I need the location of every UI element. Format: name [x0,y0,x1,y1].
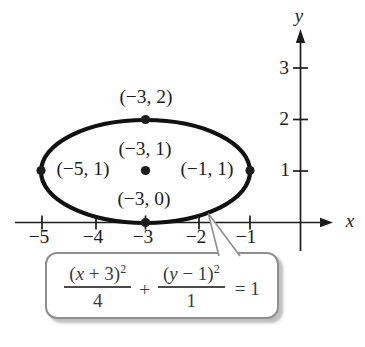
point-label-center: (−3, 1) [118,139,171,159]
fraction-x-denominator: 4 [93,291,103,310]
exponent: 2 [214,262,220,276]
fraction-x-numerator: (x + 3)2 [64,264,131,288]
y-tick-label: 3 [279,58,289,78]
figure-canvas: y x −5 −4 −3 −2 −1 3 2 1 (−3, 2) (−3, 1)… [0,0,365,347]
fraction-y-numerator: (y − 1)2 [158,264,225,288]
vertex-dot-right [245,166,254,175]
exponent: 2 [120,262,126,276]
equation-callout: (x + 3)2 4 + (y − 1)2 1 = 1 [45,252,279,319]
fraction-y-term: (y − 1)2 1 [158,264,225,310]
vertex-dot-top [141,115,150,124]
y-axis-arrow-icon [296,29,305,43]
equation-rhs: = 1 [235,274,260,300]
point-label-top: (−3, 2) [119,87,172,107]
x-axis-label: x [346,211,354,230]
x-axis-arrow-icon [320,218,333,227]
plus-operator: + [139,273,150,301]
x-tick-label: −2 [186,227,207,247]
y-axis-label: y [295,6,303,25]
y-tick-label: 1 [280,160,290,180]
vertex-dot-left [36,166,45,175]
point-label-right: (−1, 1) [180,159,233,179]
center-dot [141,166,150,175]
point-label-bottom: (−3, 0) [117,189,170,209]
fraction-x-term: (x + 3)2 4 [64,264,131,310]
y-tick-label: 2 [279,109,289,129]
fraction-y-denominator: 1 [187,291,197,310]
point-label-left: (−5, 1) [56,159,109,179]
x-tick-label: −3 [133,227,154,247]
x-tick-label: −1 [236,227,257,247]
x-tick-label: −4 [83,227,104,247]
x-tick-label: −5 [29,227,50,247]
